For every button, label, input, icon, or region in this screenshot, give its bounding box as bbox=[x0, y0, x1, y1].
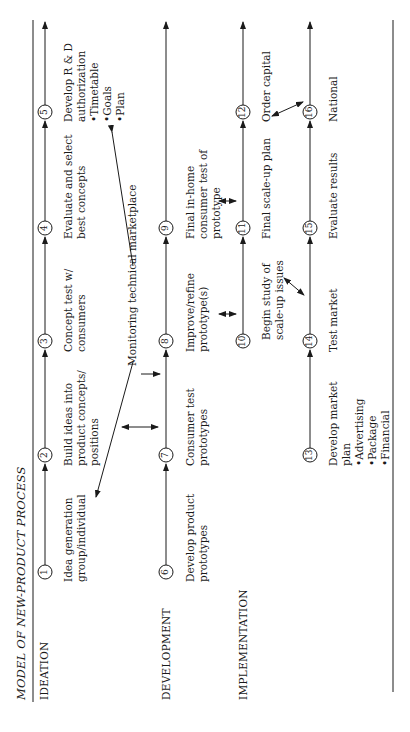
step-label-12: Order capital bbox=[260, 51, 273, 122]
step-label-11: Final scale-up plan bbox=[260, 138, 273, 239]
step-label-1: Idea generation group/individual bbox=[62, 494, 88, 582]
step-number-2: 2 bbox=[39, 452, 49, 458]
step-label-4: Evaluate and select best concepts bbox=[62, 135, 88, 239]
step-number-15: 15 bbox=[304, 223, 314, 234]
step-number-8: 8 bbox=[160, 338, 170, 344]
step-label-2: Build ideas into product concepts/ posit… bbox=[62, 370, 101, 466]
step-label-3: Concept test w/ consumers bbox=[62, 269, 88, 352]
step-label-13-text: Develop market plan bbox=[327, 381, 353, 466]
bullet-plan: Plan bbox=[114, 43, 127, 122]
bullet-package: Package bbox=[366, 381, 379, 466]
new-product-process-diagram: 1 2 3 4 5 6 7 8 9 10 11 12 13 14 15 16 M… bbox=[0, 0, 410, 732]
bullet-timetable: Timetable bbox=[88, 43, 101, 122]
step-label-6: Develop product prototypes bbox=[184, 494, 210, 582]
step-label-10: Begin study of scale-up issues bbox=[260, 260, 286, 340]
step-label-15: Evaluate results bbox=[327, 153, 340, 239]
step-number-3: 3 bbox=[39, 338, 49, 344]
step-number-11: 11 bbox=[237, 223, 247, 234]
step-number-16: 16 bbox=[304, 107, 314, 118]
step-label-8: Improve/refine prototype(s) bbox=[184, 273, 210, 352]
step-label-7: Consumer test prototypes bbox=[184, 388, 210, 466]
step-label-5-text: Develop R & D authorization bbox=[62, 43, 88, 122]
step-label-16: National bbox=[327, 76, 340, 122]
step-number-10: 10 bbox=[237, 336, 247, 347]
step-label-9: Final in-home consumer test of prototype bbox=[184, 150, 223, 239]
step-number-12: 12 bbox=[237, 107, 247, 118]
step-number-7: 7 bbox=[160, 452, 170, 458]
bullet-goals: Goals bbox=[101, 43, 114, 122]
step-label-14: Test market bbox=[327, 289, 340, 352]
step-13-bullets: Advertising Package Financial bbox=[353, 381, 392, 466]
monitoring-annotation: Monitoring technical marketplace bbox=[126, 185, 138, 366]
step-label-13: Develop market plan Advertising Package … bbox=[327, 381, 392, 466]
bullet-advertising: Advertising bbox=[353, 381, 366, 466]
step-5-bullets: Timetable Goals Plan bbox=[88, 43, 127, 122]
bullet-financial: Financial bbox=[379, 381, 392, 466]
step-label-5: Develop R & D authorization Timetable Go… bbox=[62, 43, 127, 122]
phase-development: DEVELOPMENT bbox=[160, 608, 172, 700]
step-number-4: 4 bbox=[39, 225, 49, 231]
step-number-13: 13 bbox=[304, 450, 314, 461]
step-number-6: 6 bbox=[160, 569, 170, 575]
diagram-title: MODEL OF NEW-PRODUCT PROCESS bbox=[14, 466, 28, 700]
phase-implementation: IMPLEMENTATION bbox=[237, 589, 249, 700]
step-number-5: 5 bbox=[39, 109, 49, 115]
step-number-1: 1 bbox=[39, 569, 49, 575]
step-number-9: 9 bbox=[160, 225, 170, 231]
phase-ideation: IDEATION bbox=[38, 641, 50, 700]
step-number-14: 14 bbox=[304, 336, 314, 347]
